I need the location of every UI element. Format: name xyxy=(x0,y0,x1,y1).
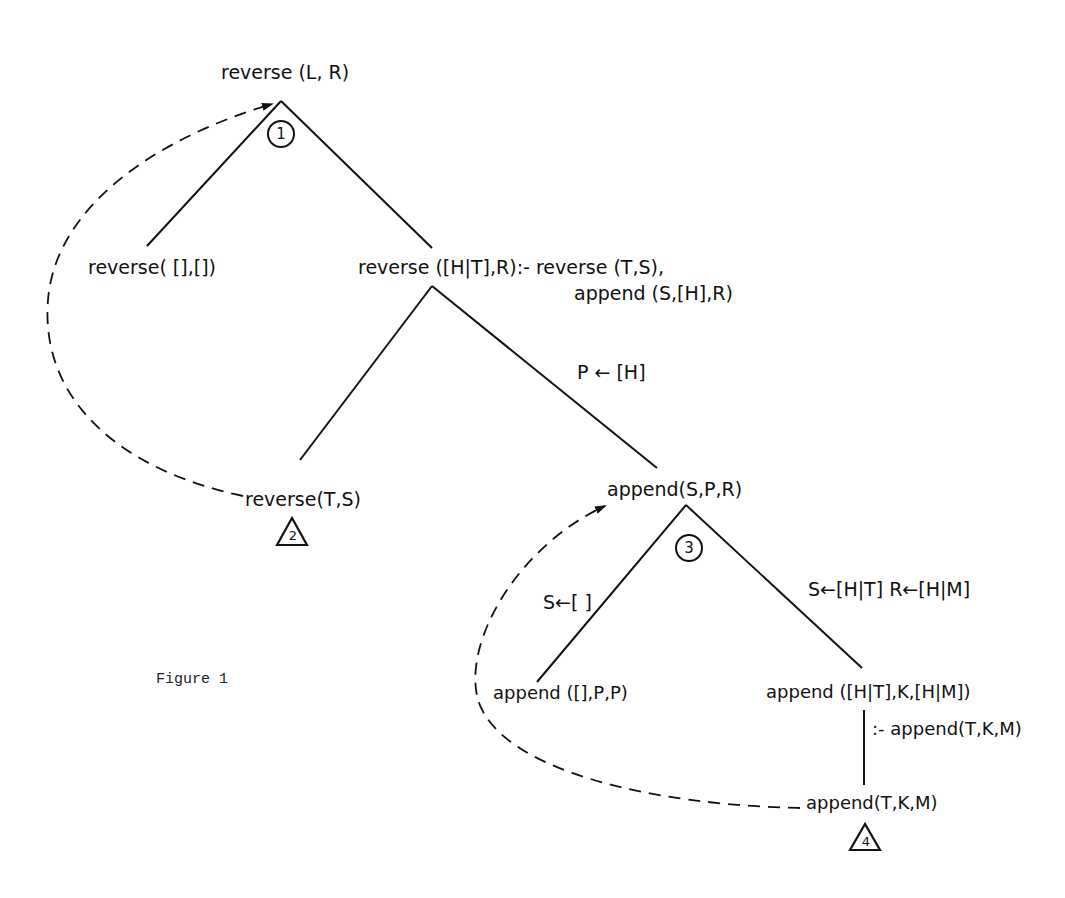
edge-label-s-empty: S←[ ] xyxy=(543,593,592,612)
node-reverse-recursive-head: reverse ([H|T],R):- reverse (T,S), xyxy=(358,258,664,277)
edge-label-s-r-binding: S←[H|T] R←[H|M] xyxy=(808,580,970,599)
edge-root-to-recursive xyxy=(281,101,432,248)
node-append-recursive-body: :- append(T,K,M) xyxy=(872,720,1022,738)
recursion-arrow-append xyxy=(475,506,800,808)
node-append-recursive-call: append(T,K,M) xyxy=(806,794,938,812)
circle-marker-1-label: 1 xyxy=(271,125,291,143)
node-reverse-recursive-body: append (S,[H],R) xyxy=(574,284,733,303)
node-append-base: append ([],P,P) xyxy=(493,684,628,702)
edge-to-reverse-call xyxy=(300,286,432,460)
node-reverse-base: reverse( [],[]) xyxy=(88,258,216,277)
node-append-recursive-head: append ([H|T],K,[H|M]) xyxy=(766,683,971,701)
clause-tree-diagram xyxy=(0,0,1065,898)
node-reverse-call: reverse(T,S) xyxy=(245,490,361,509)
recursion-arrow-reverse xyxy=(47,104,272,496)
circle-marker-3-label: 3 xyxy=(679,539,699,557)
node-root: reverse (L, R) xyxy=(221,63,349,82)
edge-label-p-binding: P ← [H] xyxy=(577,363,646,382)
node-append-call: append(S,P,R) xyxy=(607,480,742,499)
append-branches xyxy=(537,505,864,785)
triangle-marker-4-label: 4 xyxy=(856,834,876,849)
figure-caption: Figure 1 xyxy=(156,671,228,688)
triangle-marker-2-label: 2 xyxy=(283,528,303,543)
edge-root-to-base xyxy=(147,101,281,246)
